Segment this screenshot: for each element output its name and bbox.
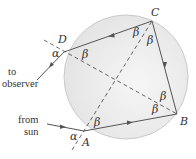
angle-beta-b-upper: β: [159, 90, 166, 103]
to-observer-label-line2: observer: [2, 78, 39, 89]
angle-beta-c-right: β: [146, 34, 153, 47]
point-label-d: D: [57, 33, 67, 46]
angle-alpha-a: α: [70, 130, 78, 143]
angle-alpha-d: α: [52, 47, 60, 60]
angle-beta-d: β: [81, 48, 88, 61]
angle-beta-c-left: β: [132, 26, 139, 39]
raindrop-reflection-diagram: D C B A α β β β β β β α to observer from…: [0, 0, 196, 159]
angle-beta-a: β: [93, 116, 100, 129]
from-sun-label-line1: from: [18, 114, 38, 125]
point-label-a: A: [81, 136, 90, 149]
raindrop-circle: [64, 15, 188, 139]
to-observer-label-line1: to: [8, 66, 16, 77]
point-label-c: C: [151, 6, 160, 19]
angle-beta-b-lower: β: [151, 103, 158, 116]
point-label-b: B: [179, 115, 188, 128]
diagram-canvas: D C B A α β β β β β β α to observer from…: [0, 0, 196, 159]
ray-from-sun: [47, 124, 84, 131]
from-sun-label-line2: sun: [24, 126, 39, 137]
arrow-icon: [60, 125, 66, 130]
